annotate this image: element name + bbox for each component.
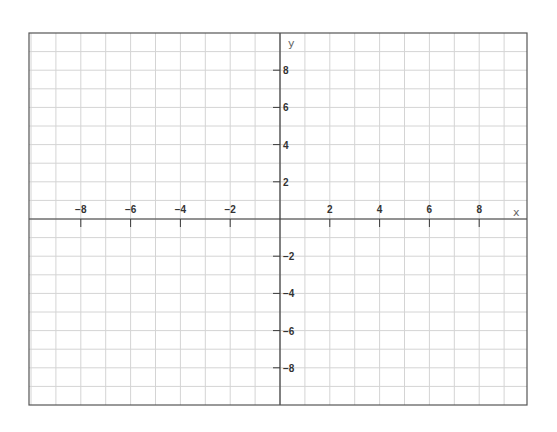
y-tick-label: −4: [283, 288, 295, 299]
y-tick-label: 6: [283, 102, 289, 113]
x-tick-label: −6: [125, 204, 137, 215]
x-tick-label: 8: [476, 204, 482, 215]
x-tick-label: −8: [75, 204, 87, 215]
y-tick-label: 8: [283, 65, 289, 76]
y-tick-label: 2: [283, 177, 289, 188]
coordinate-plane: −8−6−4−22468 8642−2−4−6−8 x y: [0, 0, 557, 432]
x-tick-label: −2: [224, 204, 236, 215]
x-axis-label: x: [513, 206, 520, 219]
x-tick-label: −4: [175, 204, 187, 215]
y-tick-label: −6: [283, 326, 295, 337]
x-axis-ticks: −8−6−4−22468: [75, 204, 482, 227]
y-axis-label: y: [288, 37, 295, 50]
x-tick-label: 2: [327, 204, 333, 215]
x-tick-label: 6: [427, 204, 433, 215]
y-tick-label: −8: [283, 363, 295, 374]
y-tick-label: 4: [283, 140, 289, 151]
x-tick-label: 4: [377, 204, 383, 215]
y-tick-label: −2: [283, 251, 295, 262]
